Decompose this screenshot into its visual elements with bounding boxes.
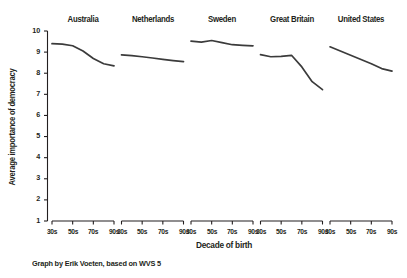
x-tick-label: 30s bbox=[41, 227, 62, 236]
chart-caption: Graph by Erik Voeten, based on WVS 5 bbox=[32, 259, 161, 268]
x-tick-label: 90s bbox=[381, 227, 402, 236]
x-tick-label: 30s bbox=[111, 227, 132, 236]
y-tick-label: 3 bbox=[20, 173, 40, 182]
x-tick-label: 50s bbox=[62, 227, 83, 236]
y-tick-label: 7 bbox=[20, 89, 40, 98]
x-tick-label: 70s bbox=[291, 227, 312, 236]
y-tick-label: 4 bbox=[20, 152, 40, 161]
x-tick-label: 70s bbox=[83, 227, 104, 236]
chart-root: Average importance of democracy Australi… bbox=[0, 0, 407, 278]
x-tick-label: 50s bbox=[340, 227, 361, 236]
panel-title-united-states: United States bbox=[320, 14, 403, 24]
y-tick-label: 5 bbox=[20, 131, 40, 140]
y-tick-label: 10 bbox=[20, 26, 40, 35]
y-tick-label: 6 bbox=[20, 110, 40, 119]
x-tick-label: 30s bbox=[319, 227, 340, 236]
x-tick-label: 50s bbox=[132, 227, 153, 236]
x-axis-title: Decade of birth bbox=[196, 240, 252, 250]
x-tick-label: 50s bbox=[271, 227, 292, 236]
x-tick-label: 30s bbox=[250, 227, 271, 236]
y-tick-label: 9 bbox=[20, 47, 40, 56]
x-tick-label: 50s bbox=[201, 227, 222, 236]
x-tick-label: 70s bbox=[361, 227, 382, 236]
x-tick-label: 30s bbox=[180, 227, 201, 236]
x-tick-label: 70s bbox=[222, 227, 243, 236]
chart-series-lines bbox=[0, 0, 407, 278]
x-tick-label: 70s bbox=[152, 227, 173, 236]
y-tick-label: 1 bbox=[20, 216, 40, 225]
y-tick-label: 8 bbox=[20, 68, 40, 77]
y-tick-label: 2 bbox=[20, 194, 40, 203]
